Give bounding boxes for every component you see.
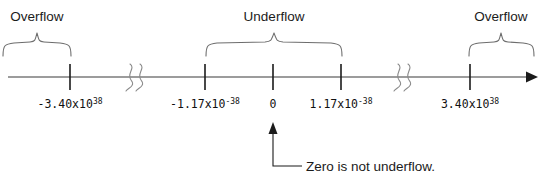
tick-label-mantissa: 1.17x10 (310, 97, 359, 111)
figure-canvas: Overflow Underflow Overflow (0, 0, 541, 175)
tick-label-exponent: 38 (93, 97, 103, 106)
curly-brace-underflow (206, 33, 342, 56)
number-line-figure: Overflow Underflow Overflow (0, 0, 541, 175)
tick-label-neg-min-norm: -1.17x10-38 (170, 97, 240, 112)
brace-group-overflow-left: Overflow (3, 9, 71, 56)
brace-group-overflow-right: Overflow (469, 9, 534, 56)
arrow-up-icon (269, 122, 278, 134)
brace-label-overflow-right: Overflow (474, 9, 528, 24)
annotation-leader-line (273, 134, 302, 166)
tick-group-pos-min-norm: 1.17x10-38 (310, 64, 373, 111)
brace-group-underflow: Underflow (206, 9, 342, 56)
tick-label-zero: 0 (270, 97, 277, 111)
tick-label-exponent: -38 (358, 97, 373, 106)
annotation-text: Zero is not underflow. (306, 159, 435, 174)
tick-label-mantissa: 3.40x10 (441, 97, 490, 111)
tick-label-pos-max: 3.40x1038 (441, 97, 499, 112)
annotation-zero-not-underflow: Zero is not underflow. (269, 122, 436, 174)
tick-label-pos-min-norm: 1.17x10-38 (310, 97, 373, 112)
tick-group-neg-min-norm: -1.17x10-38 (170, 64, 240, 111)
arrow-right-icon (526, 72, 538, 83)
tick-label-exponent: 38 (489, 97, 499, 106)
tick-label-exponent: -38 (225, 97, 240, 106)
curly-brace-overflow-left (3, 33, 71, 56)
brace-label-overflow-left: Overflow (10, 9, 64, 24)
tick-group-zero: 0 (270, 64, 277, 111)
tick-group-pos-max: 3.40x1038 (441, 64, 499, 111)
tick-group-neg-max: -3.40x1038 (37, 64, 102, 111)
tick-label-mantissa: -1.17x10 (170, 97, 225, 111)
tick-label-mantissa: -3.40x10 (37, 97, 92, 111)
brace-label-underflow: Underflow (244, 9, 305, 24)
tick-label-neg-max: -3.40x1038 (37, 97, 102, 112)
curly-brace-overflow-right (469, 33, 534, 56)
tick-label-mantissa: 0 (270, 97, 277, 111)
